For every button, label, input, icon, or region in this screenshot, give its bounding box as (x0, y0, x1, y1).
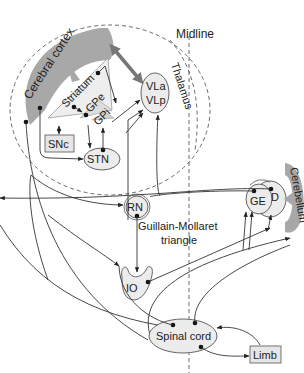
snc-label: SNc (48, 138, 69, 150)
rn-label: RN (127, 201, 143, 213)
d-label: D (271, 191, 279, 203)
spinal-cord-label: Spinal cord (156, 330, 211, 342)
vla-vlp-node (141, 73, 169, 113)
vla-label: VLa (146, 80, 166, 92)
motor-circuit-diagram: Midline Cerebral cortex Striatum GPe GPi… (0, 0, 304, 373)
guillain-mollaret-label-2: triangle (161, 234, 197, 246)
thalamus-label: Thalamus (169, 61, 195, 111)
ge-label: GE (250, 195, 266, 207)
guillain-mollaret-label-1: Guillain-Mollaret (138, 220, 217, 232)
stn-label: STN (87, 153, 109, 165)
io-label: IO (126, 282, 138, 294)
limb-label: Limb (253, 349, 277, 361)
midline-label: Midline (176, 27, 214, 41)
cortex-thalamus-arrow (113, 48, 140, 80)
vlp-label: VLp (146, 94, 166, 106)
